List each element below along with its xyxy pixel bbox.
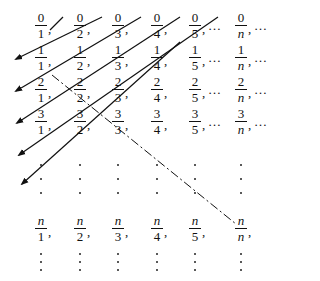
fraction: 11: [34, 43, 48, 72]
fraction: 03: [111, 11, 125, 40]
denominator: 4: [150, 91, 164, 104]
comma: ,: [125, 54, 128, 67]
comma: ,: [87, 22, 90, 35]
numerator: 2: [150, 75, 164, 88]
continuation-dot: [240, 164, 242, 166]
denominator: 1: [34, 59, 48, 72]
continuation-dot: [194, 261, 196, 263]
fraction: nn: [234, 214, 248, 243]
comma: ,: [202, 22, 205, 35]
fraction: 31: [34, 107, 48, 136]
numerator: 1: [111, 43, 125, 56]
ellipsis: …: [208, 83, 222, 96]
fraction: 23: [111, 75, 125, 104]
fraction: 2n: [234, 75, 248, 104]
comma: ,: [202, 118, 205, 131]
numerator: 1: [234, 43, 248, 56]
denominator: 1: [34, 123, 48, 136]
ellipsis: …: [254, 115, 268, 128]
denominator: n: [234, 59, 248, 72]
denominator: 4: [150, 123, 164, 136]
continuation-dot: [194, 269, 196, 271]
comma: ,: [48, 54, 51, 67]
ellipsis: …: [254, 51, 268, 64]
numerator: n: [73, 214, 87, 227]
denominator: 3: [111, 230, 125, 243]
denominator: 2: [73, 123, 87, 136]
fraction: 04: [150, 11, 164, 40]
fraction: n3: [111, 214, 125, 243]
continuation-dot: [40, 178, 42, 180]
numerator: 3: [34, 107, 48, 120]
fraction: 14: [150, 43, 164, 72]
fraction: 3n: [234, 107, 248, 136]
continuation-dot: [40, 269, 42, 271]
continuation-dot: [240, 192, 242, 194]
numerator: 3: [73, 107, 87, 120]
comma: ,: [87, 86, 90, 99]
denominator: 3: [111, 91, 125, 104]
continuation-dot: [79, 269, 81, 271]
numerator: n: [234, 214, 248, 227]
continuation-dot: [194, 178, 196, 180]
fraction: 12: [73, 43, 87, 72]
denominator: n: [234, 91, 248, 104]
continuation-dot: [40, 164, 42, 166]
numerator: n: [188, 214, 202, 227]
fraction: 01: [34, 11, 48, 40]
fraction: 25: [188, 75, 202, 104]
diagonal-stroke: [50, 17, 63, 30]
fraction: 1n: [234, 43, 248, 72]
fraction: n4: [150, 214, 164, 243]
denominator: n: [234, 27, 248, 40]
comma: ,: [164, 118, 167, 131]
continuation-dot: [79, 178, 81, 180]
comma: ,: [164, 86, 167, 99]
ellipsis: …: [208, 51, 222, 64]
denominator: 1: [34, 27, 48, 40]
numerator: 0: [73, 11, 87, 24]
numerator: 1: [150, 43, 164, 56]
fraction: 21: [34, 75, 48, 104]
continuation-dot: [117, 164, 119, 166]
fraction: 02: [73, 11, 87, 40]
continuation-dot: [40, 261, 42, 263]
comma: ,: [248, 118, 251, 131]
denominator: n: [234, 123, 248, 136]
continuation-dot: [194, 192, 196, 194]
continuation-dot: [194, 164, 196, 166]
numerator: 3: [111, 107, 125, 120]
continuation-dot: [79, 253, 81, 255]
continuation-dot: [194, 253, 196, 255]
comma: ,: [48, 225, 51, 238]
denominator: 3: [111, 123, 125, 136]
continuation-dot: [240, 178, 242, 180]
comma: ,: [248, 22, 251, 35]
fraction: n1: [34, 214, 48, 243]
continuation-dot: [156, 261, 158, 263]
comma: ,: [87, 54, 90, 67]
numerator: 0: [34, 11, 48, 24]
denominator: 2: [73, 27, 87, 40]
fraction: n2: [73, 214, 87, 243]
fraction: 0n: [234, 11, 248, 40]
comma: ,: [125, 86, 128, 99]
numerator: 3: [234, 107, 248, 120]
comma: ,: [87, 118, 90, 131]
fraction: 35: [188, 107, 202, 136]
comma: ,: [48, 22, 51, 35]
numerator: 2: [188, 75, 202, 88]
denominator: 4: [150, 59, 164, 72]
continuation-dot: [240, 253, 242, 255]
comma: ,: [248, 86, 251, 99]
comma: ,: [248, 225, 251, 238]
continuation-dot: [240, 269, 242, 271]
comma: ,: [48, 86, 51, 99]
numerator: 1: [188, 43, 202, 56]
comma: ,: [202, 86, 205, 99]
fraction: 32: [73, 107, 87, 136]
continuation-dot: [240, 261, 242, 263]
continuation-dot: [117, 192, 119, 194]
comma: ,: [87, 225, 90, 238]
comma: ,: [125, 118, 128, 131]
